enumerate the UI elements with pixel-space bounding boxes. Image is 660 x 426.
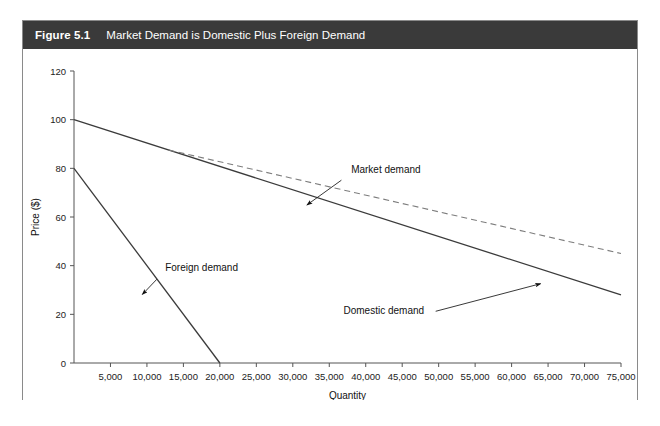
y-tick-label: 0 bbox=[61, 358, 66, 369]
x-axis-title: Quantity bbox=[329, 390, 366, 400]
x-tick-label: 70,000 bbox=[570, 371, 599, 382]
x-tick-label: 65,000 bbox=[534, 371, 563, 382]
annotation-leader bbox=[436, 284, 541, 312]
y-tick-label: 20 bbox=[55, 309, 66, 320]
annotation-label: Foreign demand bbox=[165, 262, 238, 273]
y-tick-label: 100 bbox=[50, 114, 66, 125]
x-tick-label: 60,000 bbox=[497, 371, 526, 382]
y-tick-label: 60 bbox=[55, 212, 66, 223]
annotation-leader bbox=[307, 180, 341, 205]
x-tick-label: 35,000 bbox=[315, 371, 344, 382]
y-axis-title: Price ($) bbox=[30, 198, 41, 236]
figure-container: Figure 5.1 Market Demand is Domestic Plu… bbox=[22, 20, 638, 400]
x-tick-label: 25,000 bbox=[242, 371, 271, 382]
x-tick-label: 75,000 bbox=[606, 371, 635, 382]
figure-number: Figure 5.1 bbox=[35, 29, 90, 41]
x-axis-ticks: 5,00010,00015,00020,00025,00030,00035,00… bbox=[99, 363, 636, 382]
x-tick-label: 15,000 bbox=[169, 371, 198, 382]
x-tick-label: 30,000 bbox=[278, 371, 307, 382]
chart-plot-area: 020406080100120 5,00010,00015,00020,0002… bbox=[23, 49, 637, 400]
x-tick-label: 10,000 bbox=[132, 371, 161, 382]
chart-annotations: Market demandForeign demandDomestic dema… bbox=[142, 164, 540, 316]
figure-header: Figure 5.1 Market Demand is Domestic Plu… bbox=[23, 21, 637, 49]
data-series-group bbox=[74, 120, 621, 363]
x-tick-label: 50,000 bbox=[424, 371, 453, 382]
x-tick-label: 5,000 bbox=[99, 371, 123, 382]
x-tick-label: 55,000 bbox=[461, 371, 490, 382]
x-tick-label: 45,000 bbox=[388, 371, 417, 382]
x-tick-label: 40,000 bbox=[351, 371, 380, 382]
annotation-label: Market demand bbox=[351, 164, 420, 175]
y-tick-label: 80 bbox=[55, 163, 66, 174]
series-domestic-demand bbox=[74, 120, 621, 295]
y-tick-label: 120 bbox=[50, 66, 66, 77]
y-tick-label: 40 bbox=[55, 260, 66, 271]
annotation-leader bbox=[142, 279, 156, 294]
y-axis-ticks: 020406080100120 bbox=[50, 66, 74, 369]
x-tick-label: 20,000 bbox=[205, 371, 234, 382]
figure-caption: Market Demand is Domestic Plus Foreign D… bbox=[106, 29, 365, 41]
demand-chart: 020406080100120 5,00010,00015,00020,0002… bbox=[23, 49, 637, 400]
annotation-label: Domestic demand bbox=[343, 305, 424, 316]
